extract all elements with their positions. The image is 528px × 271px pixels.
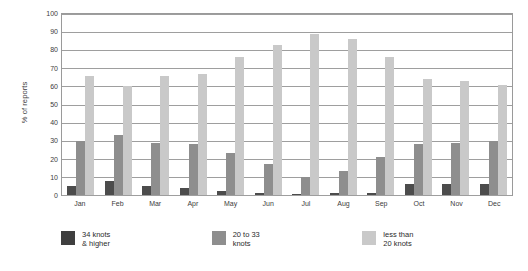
wind-speed-distribution-bar-chart: % of reports 1009080706050403020100 JanF… (0, 0, 528, 271)
x-axis-tick-label: May (212, 199, 250, 213)
x-axis-tick-label: Jun (249, 199, 287, 213)
y-axis-tick-labels: 1009080706050403020100 (36, 13, 58, 196)
gridline (62, 195, 512, 196)
month-bar-group (400, 14, 438, 195)
month-bar-group (212, 14, 250, 195)
bar (405, 184, 414, 195)
bar (330, 193, 339, 195)
legend-label: 20 to 33 knots (233, 230, 260, 248)
month-bar-group (137, 14, 175, 195)
x-axis-tick-label: Mar (136, 199, 174, 213)
month-bar-group (437, 14, 475, 195)
legend-swatch (362, 231, 376, 245)
plot-area (61, 13, 513, 196)
month-bar-group (362, 14, 400, 195)
month-bar-group (325, 14, 363, 195)
bar (460, 81, 469, 195)
legend-swatch (212, 231, 226, 245)
month-bar-group (100, 14, 138, 195)
y-axis-title-label: % of reports (21, 82, 30, 124)
month-bar-group (287, 14, 325, 195)
bar (451, 143, 460, 195)
month-bar-group (250, 14, 288, 195)
bar (348, 39, 357, 195)
bar (339, 171, 348, 195)
x-axis-tick-label: Sep (362, 199, 400, 213)
chart-legend: 34 knots & higher20 to 33 knotsless than… (61, 230, 513, 260)
bar (385, 57, 394, 195)
bars-layer (62, 14, 512, 195)
bar (160, 76, 169, 195)
y-axis-tick-label: 20 (36, 155, 58, 162)
bar (367, 193, 376, 195)
bar (423, 79, 432, 195)
legend-entry: less than 20 knots (362, 230, 513, 260)
bar (264, 164, 273, 195)
bar (217, 191, 226, 195)
bar (114, 135, 123, 195)
legend-swatch (61, 231, 75, 245)
legend-label: less than 20 knots (383, 230, 413, 248)
month-bar-group (175, 14, 213, 195)
bar (151, 143, 160, 195)
bar (301, 177, 310, 195)
y-axis-tick-label: 50 (36, 101, 58, 108)
y-axis-tick-label: 30 (36, 137, 58, 144)
legend-entry: 34 knots & higher (61, 230, 212, 260)
y-axis-title: % of reports (18, 0, 32, 205)
y-axis-tick-label: 100 (36, 10, 58, 17)
bar (180, 188, 189, 195)
y-axis-tick-label: 60 (36, 82, 58, 89)
y-axis-tick-label: 40 (36, 119, 58, 126)
y-axis-tick-label: 90 (36, 28, 58, 35)
bar (226, 153, 235, 195)
y-axis-tick-label: 10 (36, 173, 58, 180)
month-bar-group (62, 14, 100, 195)
x-axis-tick-label: Apr (174, 199, 212, 213)
y-axis-tick-label: 80 (36, 46, 58, 53)
x-axis-tick-label: Jan (61, 199, 99, 213)
month-bar-group (475, 14, 513, 195)
bar (123, 86, 132, 195)
bar (76, 141, 85, 195)
x-axis-tick-label: Nov (438, 199, 476, 213)
bar (85, 76, 94, 195)
bar (498, 85, 507, 195)
bar (442, 184, 451, 195)
bar (255, 193, 264, 195)
bar (414, 144, 423, 195)
bar (189, 144, 198, 195)
bar (198, 74, 207, 195)
x-axis-tick-label: Aug (325, 199, 363, 213)
bar (480, 184, 489, 195)
bar (310, 34, 319, 195)
bar (489, 141, 498, 195)
bar (292, 194, 301, 195)
y-axis-tick-label: 70 (36, 64, 58, 71)
bar (105, 181, 114, 195)
bar (273, 45, 282, 195)
x-axis-tick-label: Dec (475, 199, 513, 213)
x-axis-tick-label: Feb (99, 199, 137, 213)
bar (67, 186, 76, 195)
x-axis-tick-label: Jul (287, 199, 325, 213)
bar (142, 186, 151, 195)
y-axis-tick-label: 0 (36, 192, 58, 199)
bar (376, 157, 385, 195)
bar (235, 57, 244, 195)
x-axis-tick-labels: JanFebMarAprMayJunJulAugSepOctNovDec (61, 199, 513, 213)
legend-entry: 20 to 33 knots (212, 230, 363, 260)
x-axis-tick-label: Oct (400, 199, 438, 213)
legend-label: 34 knots & higher (82, 230, 110, 248)
